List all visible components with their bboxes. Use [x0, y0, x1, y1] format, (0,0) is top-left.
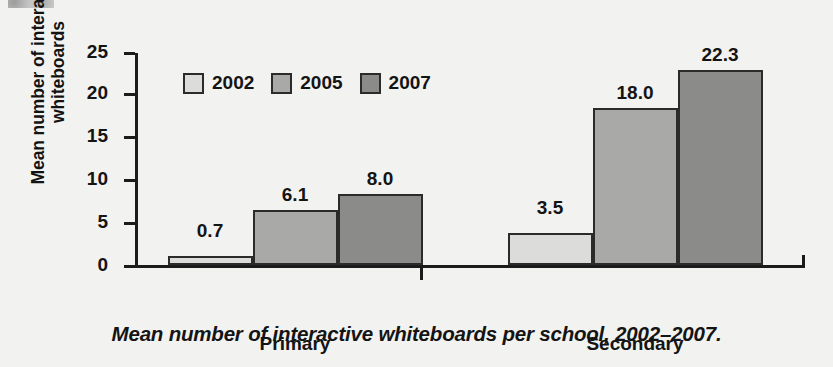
bar-primary-2007 [338, 194, 423, 265]
y-tick-label-15: 15 [87, 125, 108, 147]
bar-value-secondary-2005: 18.0 [617, 82, 654, 104]
x-axis-right-end-tick [802, 255, 805, 268]
legend-item-2002: 2002 [183, 72, 254, 94]
y-tick-label-25: 25 [87, 41, 108, 63]
y-tick-0: 0 [124, 265, 135, 268]
y-tick-label-20: 20 [87, 82, 108, 104]
x-axis-group-separator-tick [420, 268, 423, 280]
y-axis-title: Mean number of interactive whiteboards [19, 0, 79, 187]
bar-secondary-2002 [508, 233, 593, 265]
legend-swatch-2005-icon [271, 73, 292, 94]
chart-legend: 2002 2005 2007 [183, 72, 431, 94]
bar-value-secondary-2007: 22.3 [702, 44, 739, 66]
y-tick-10: 10 [124, 179, 135, 182]
legend-item-2007: 2007 [360, 72, 431, 94]
x-axis-line [135, 265, 805, 268]
y-tick-label-5: 5 [97, 211, 108, 233]
bar-primary-2002 [168, 256, 253, 265]
legend-label-2005: 2005 [300, 72, 342, 94]
bar-primary-2005 [253, 210, 338, 265]
legend-swatch-2007-icon [360, 73, 381, 94]
y-axis-line [135, 53, 138, 268]
figure-caption: Mean number of interactive whiteboards p… [0, 322, 833, 346]
y-tick-15: 15 [124, 136, 135, 139]
y-tick-5: 5 [124, 222, 135, 225]
legend-label-2002: 2002 [212, 72, 254, 94]
bar-secondary-2005 [593, 108, 678, 265]
bar-secondary-2007 [678, 70, 763, 265]
y-tick-label-10: 10 [87, 168, 108, 190]
legend-item-2005: 2005 [271, 72, 342, 94]
bar-value-primary-2002: 0.7 [197, 220, 223, 242]
legend-label-2007: 2007 [389, 72, 431, 94]
y-tick-label-0: 0 [97, 254, 108, 276]
chart-figure: Mean number of interactive whiteboards 0… [0, 0, 833, 367]
y-axis-title-line1: Mean number of interactive [29, 0, 49, 184]
bar-value-primary-2007: 8.0 [367, 168, 393, 190]
y-axis-title-line2: whiteboards [49, 21, 69, 123]
bar-value-secondary-2002: 3.5 [537, 197, 563, 219]
y-tick-25: 25 [124, 52, 135, 55]
legend-swatch-2002-icon [183, 73, 204, 94]
y-tick-20: 20 [124, 93, 135, 96]
bar-value-primary-2005: 6.1 [282, 184, 308, 206]
